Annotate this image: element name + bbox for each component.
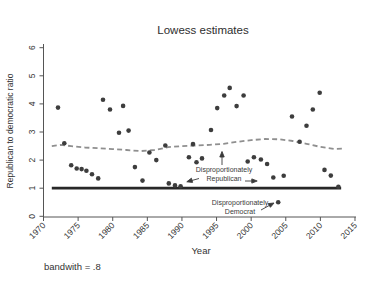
data-point <box>84 169 89 174</box>
data-point <box>227 86 232 91</box>
republican-up-arrow-icon <box>220 152 224 166</box>
scatter-points-group <box>56 86 341 205</box>
data-point <box>121 104 126 109</box>
data-point <box>96 176 101 181</box>
lowess-chart: Lowess estimates Republican to democrati… <box>0 0 377 296</box>
data-point <box>209 128 214 133</box>
data-point <box>191 142 196 147</box>
data-point <box>281 174 286 179</box>
x-tick-label: 1990 <box>165 220 186 241</box>
data-point <box>252 155 257 160</box>
x-tick-label: 1985 <box>131 220 152 241</box>
data-point <box>187 155 192 160</box>
x-tick-label: 2015 <box>338 220 359 241</box>
data-point <box>317 90 322 95</box>
data-point <box>222 93 227 98</box>
x-tick-label: 2010 <box>304 220 325 241</box>
x-axis-label: Year <box>191 245 210 256</box>
data-point <box>173 183 178 188</box>
republican-annotation-line1: Disproportionately <box>196 166 253 174</box>
screenshot-root: Lowess estimates Republican to democrati… <box>0 0 377 296</box>
republican-annotation-line2: Republican <box>206 175 241 183</box>
data-point <box>69 163 74 168</box>
data-point <box>167 181 172 186</box>
data-point <box>163 143 168 148</box>
data-point <box>62 141 67 146</box>
data-point <box>241 93 246 98</box>
data-point <box>200 156 205 161</box>
y-tick-label: 3 <box>27 129 37 134</box>
data-point <box>215 106 220 111</box>
x-tick-label: 2000 <box>235 220 256 241</box>
y-tick-label: 6 <box>27 45 37 50</box>
data-point <box>297 140 302 145</box>
data-point <box>140 178 145 183</box>
democrat-annotation-line2: Democrat <box>225 208 255 215</box>
data-point <box>90 172 95 177</box>
data-point <box>329 173 334 178</box>
data-point <box>74 166 79 171</box>
democrat-annotation: Disproportionately Democrat <box>212 199 274 215</box>
chart-title: Lowess estimates <box>157 24 249 36</box>
data-point <box>56 105 61 110</box>
data-point <box>101 97 106 102</box>
data-point <box>126 128 131 133</box>
data-point <box>265 162 270 167</box>
data-point <box>117 131 122 136</box>
y-axis-label: Republican to democratic ratio <box>5 73 15 188</box>
data-point <box>108 107 113 112</box>
data-point <box>245 159 250 164</box>
x-tick-label: 1980 <box>96 220 117 241</box>
democrat-annotation-line1: Disproportionately <box>212 199 269 207</box>
y-tick-label: 1 <box>27 186 37 191</box>
data-point <box>290 114 295 119</box>
data-point <box>276 200 281 205</box>
data-point <box>234 104 239 109</box>
data-point <box>304 124 309 129</box>
bandwidth-note: bandwith = .8 <box>44 261 101 272</box>
y-tick-label: 5 <box>27 73 37 78</box>
data-point <box>322 168 327 173</box>
x-tick-label: 1995 <box>200 220 221 241</box>
data-point <box>133 165 138 170</box>
y-tick-label: 4 <box>27 101 37 106</box>
data-point <box>259 157 264 162</box>
data-point <box>154 158 159 163</box>
data-point <box>147 150 152 155</box>
x-tick-label: 1975 <box>62 220 83 241</box>
x-tick-label: 1970 <box>27 220 48 241</box>
y-tick-label: 0 <box>27 214 37 219</box>
y-tick-label: 2 <box>27 157 37 162</box>
data-point <box>336 185 341 190</box>
republican-left-arrow-icon <box>187 178 199 182</box>
data-point <box>311 107 316 112</box>
x-tick-label: 2005 <box>269 220 290 241</box>
data-point <box>79 167 84 172</box>
data-point <box>194 160 199 165</box>
data-point <box>271 175 276 180</box>
republican-right-arrow-icon <box>245 179 257 183</box>
republican-annotation: Disproportionately Republican <box>187 152 257 184</box>
data-point <box>178 184 183 189</box>
